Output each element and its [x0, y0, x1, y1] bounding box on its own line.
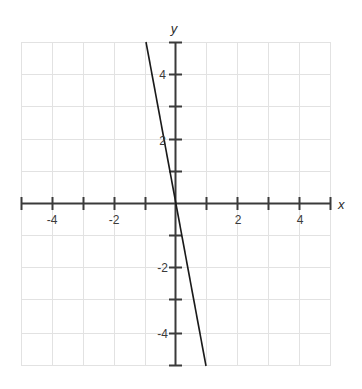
x-tick-label-2: 2 [235, 213, 242, 227]
coordinate-plane-graph: y x -4 -2 2 4 4 2 -2 -4 [0, 0, 362, 389]
graph-canvas: y x -4 -2 2 4 4 2 -2 -4 [0, 0, 362, 389]
x-tick-label-neg4: -4 [47, 213, 58, 227]
x-tick-label-4: 4 [297, 213, 304, 227]
x-tick-label-neg2: -2 [109, 213, 120, 227]
y-tick-label-4: 4 [159, 68, 166, 82]
y-tick-label-neg2: -2 [157, 261, 168, 275]
x-axis-label: x [337, 197, 345, 212]
y-tick-label-neg4: -4 [157, 327, 168, 341]
graph-background [0, 0, 362, 389]
y-tick-label-2: 2 [159, 134, 166, 148]
